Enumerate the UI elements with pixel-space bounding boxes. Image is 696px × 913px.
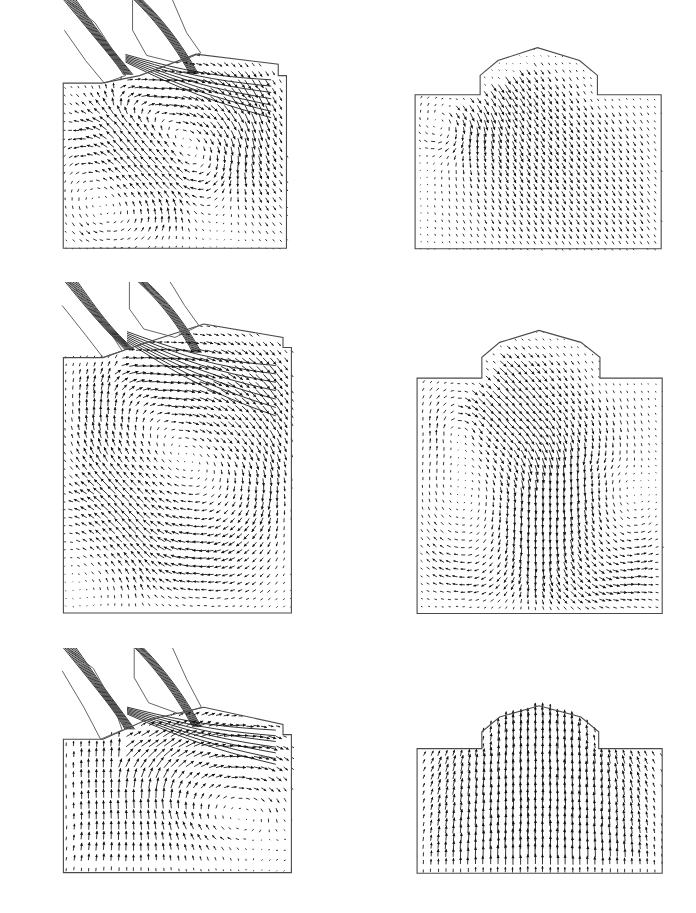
panel-middle-right bbox=[412, 320, 666, 618]
panel-top-right bbox=[410, 38, 665, 252]
port-flow-streaks bbox=[60, 282, 276, 416]
velocity-arrows bbox=[420, 332, 663, 611]
panel-bottom-left-canvas bbox=[55, 648, 295, 876]
panel-bottom-right bbox=[412, 690, 666, 876]
panel-middle-right-canvas bbox=[412, 320, 666, 618]
panel-bottom-right-canvas bbox=[412, 690, 666, 876]
velocity-arrows bbox=[419, 49, 662, 250]
velocity-arrows bbox=[423, 703, 662, 873]
velocity-arrows bbox=[63, 326, 294, 608]
panel-top-left bbox=[55, 0, 290, 252]
panel-top-left-canvas bbox=[55, 0, 290, 252]
panel-bottom-left bbox=[55, 648, 295, 876]
port-flow-streaks bbox=[60, 0, 272, 118]
panel-middle-left bbox=[55, 282, 295, 618]
velocity-vector-figure: In-cylinder velocity vector fields bbox=[0, 0, 696, 913]
panel-top-right-canvas bbox=[410, 38, 665, 252]
panel-middle-left-canvas bbox=[55, 282, 295, 618]
